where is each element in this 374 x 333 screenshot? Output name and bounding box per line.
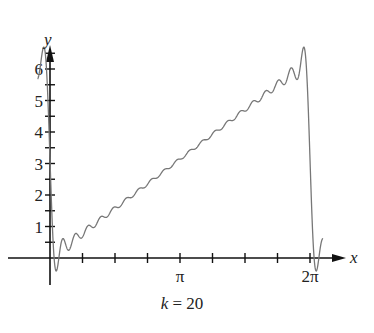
chart: 123456 π2π x y k = 20 — [0, 0, 374, 333]
y-axis-label: y — [42, 30, 52, 49]
x-tick-labels: π2π — [176, 267, 319, 286]
caption-value: = 20 — [172, 294, 203, 313]
y-tick-label: 1 — [35, 218, 44, 237]
chart-caption: k = 20 — [161, 294, 204, 313]
y-tick-label: 3 — [35, 155, 44, 174]
y-tick-label: 2 — [35, 186, 44, 205]
x-tick-label: π — [176, 267, 185, 286]
y-tick-label: 4 — [35, 123, 44, 142]
y-tick-labels: 123456 — [35, 60, 44, 237]
fourier-series-curve — [38, 47, 324, 271]
y-tick-label: 5 — [35, 92, 44, 111]
caption-variable: k — [161, 294, 169, 313]
x-axis-label: x — [349, 248, 358, 267]
